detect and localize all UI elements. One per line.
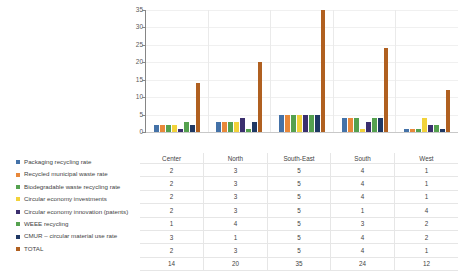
bar	[422, 118, 427, 132]
legend-item: Packaging recycling rate	[16, 156, 140, 168]
table-cell: 2	[140, 204, 204, 217]
y-axis-tick	[142, 115, 146, 116]
legend-swatch-icon	[16, 173, 20, 177]
y-axis-tick	[142, 97, 146, 98]
plot-area	[146, 10, 458, 132]
bar-chart: 35302520151050	[125, 4, 458, 146]
legend-item: Circular economy investments	[16, 193, 140, 205]
table-cell: 5	[267, 190, 331, 203]
table-column-header: Center	[140, 153, 204, 164]
legend-item-label: Circular economy innovation (patents)	[24, 209, 128, 215]
bar	[315, 115, 320, 132]
table-cell: 20	[204, 257, 268, 270]
table-cell: 2	[140, 164, 204, 177]
bar-group	[209, 10, 272, 132]
bar-groups	[146, 10, 458, 132]
table-cell: 4	[394, 204, 458, 217]
legend-swatch-icon	[16, 222, 20, 226]
bar	[166, 125, 171, 132]
y-axis-tick	[142, 10, 146, 11]
legend-item: Circular economy innovation (patents)	[16, 206, 140, 218]
legend-item: Biodegradable waste recycling rate	[16, 181, 140, 193]
table-cell: 3	[140, 230, 204, 243]
table-row: 23541	[140, 164, 458, 177]
bar	[428, 125, 433, 132]
table-cell: 4	[331, 190, 395, 203]
bar	[172, 125, 177, 132]
table-cell: 1	[394, 244, 458, 257]
bar	[184, 122, 189, 132]
legend-item-label: Packaging recycling rate	[24, 159, 91, 165]
table-cell: 2	[394, 230, 458, 243]
table-cell: 1	[394, 164, 458, 177]
bar	[240, 118, 245, 132]
bar-group	[334, 10, 397, 132]
legend-item-label: CMUR – circular material use rate	[24, 233, 117, 239]
table-column-header: North	[204, 153, 268, 164]
table-cell: 5	[267, 244, 331, 257]
table-cell: 5	[267, 164, 331, 177]
table-row: 23541	[140, 244, 458, 257]
bar	[291, 115, 296, 132]
table-cell: 3	[204, 177, 268, 190]
bar	[196, 83, 200, 132]
table-cell: 1	[331, 204, 395, 217]
legend-item-label: Recycled municipal waste rate	[24, 171, 108, 177]
y-axis-tick	[142, 80, 146, 81]
bar	[446, 90, 450, 132]
legend-item: CMUR – circular material use rate	[16, 230, 140, 242]
table-cell: 5	[267, 204, 331, 217]
legend-item: Recycled municipal waste rate	[16, 168, 140, 180]
bar	[384, 48, 388, 132]
legend-item-label: Circular economy investments	[24, 196, 107, 202]
bar	[309, 115, 314, 132]
bar	[258, 62, 262, 132]
bar	[303, 115, 308, 132]
data-table: CenterNorthSouth-EastSouthWest 235412354…	[140, 153, 458, 271]
y-axis-tick	[142, 45, 146, 46]
bar	[160, 125, 165, 132]
bar-group	[271, 10, 334, 132]
table-cell: 3	[204, 204, 268, 217]
table-row: 31542	[140, 230, 458, 243]
bar-group	[396, 10, 458, 132]
table-cell: 2	[394, 217, 458, 230]
table-cell: 4	[331, 164, 395, 177]
table-column-header: West	[394, 153, 458, 164]
legend-swatch-icon	[16, 235, 20, 239]
bar	[321, 10, 325, 132]
bar	[366, 122, 371, 132]
legend-item-label: WEEE recycling	[24, 221, 68, 227]
table-cell: 12	[394, 257, 458, 270]
bar	[285, 115, 290, 132]
legend-swatch-icon	[16, 160, 20, 164]
bar	[297, 115, 302, 132]
legend-item-label: TOTAL	[24, 246, 43, 252]
table-cell: 4	[331, 244, 395, 257]
bar	[252, 122, 257, 132]
table-cell: 1	[140, 217, 204, 230]
y-axis-tick	[142, 62, 146, 63]
legend-swatch-icon	[16, 210, 20, 214]
bar	[378, 118, 383, 132]
table-row: 23514	[140, 204, 458, 217]
bar	[372, 118, 377, 132]
table-row: 14532	[140, 217, 458, 230]
table-cell: 2	[140, 177, 204, 190]
table-cell: 4	[204, 217, 268, 230]
bar	[434, 125, 439, 132]
y-axis-tick	[142, 27, 146, 28]
bar	[154, 125, 159, 132]
bar	[342, 118, 347, 132]
table-cell: 3	[204, 244, 268, 257]
y-axis-labels: 35302520151050	[125, 4, 143, 132]
table-cell: 4	[331, 230, 395, 243]
table-cell: 4	[331, 177, 395, 190]
y-axis-tick	[142, 132, 146, 133]
table-cell: 3	[204, 190, 268, 203]
legend-item: TOTAL	[16, 243, 140, 255]
bar	[279, 115, 284, 132]
table-row: 23541	[140, 177, 458, 190]
table-header-row: CenterNorthSouth-EastSouthWest	[140, 153, 458, 164]
